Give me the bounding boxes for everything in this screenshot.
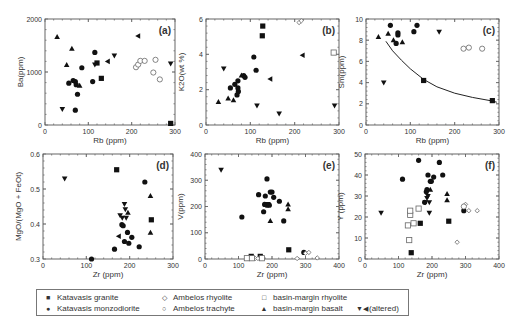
filled-circle-marker [425, 172, 430, 177]
down-triangle-marker [123, 216, 129, 221]
down-triangle-marker [276, 112, 282, 117]
panel-label: (c) [483, 25, 495, 36]
filled-circle-marker [125, 230, 130, 235]
filled-triangle-marker [400, 39, 406, 44]
y-tick-label: 0 [359, 122, 363, 129]
filled-circle-marker [228, 85, 233, 90]
x-tick-label: 0 [41, 262, 45, 269]
open-circle-marker [142, 58, 147, 63]
y-tick-label: 30 [354, 193, 362, 200]
down-triangle-marker [218, 168, 224, 173]
x-tick-label: 200 [426, 262, 438, 269]
left-triangle-marker [267, 76, 272, 82]
open-circle-marker [466, 45, 471, 50]
y-tick-label: 2 [359, 100, 363, 107]
y-tick-label: 4 [359, 79, 363, 86]
filled-circle-marker [89, 256, 94, 261]
y-tick-label: 0.6 [30, 151, 40, 158]
filled-circle-marker [142, 179, 147, 184]
y-tick-label: 100 [190, 229, 202, 236]
x-tick-label: 100 [404, 128, 416, 135]
panel-b: 01002003000246Rb (ppm)K2O(wt %)(b) [177, 16, 345, 146]
x-axis-label: Zr (ppm) [93, 270, 124, 279]
y-tick-label: 0 [358, 256, 362, 263]
filled-square-marker [260, 23, 265, 28]
y-tick-label: 300 [190, 177, 202, 184]
open-circle-icon: ○ [159, 303, 169, 314]
x-tick-label: 200 [449, 128, 461, 135]
filled-circle-marker [137, 244, 142, 249]
filled-circle-marker [236, 89, 241, 94]
plot-frame [205, 154, 339, 259]
open-diamond-marker [467, 209, 471, 213]
x-axis-label: Rb (ppm) [93, 136, 127, 145]
x-tick-label: 0 [364, 128, 368, 135]
y-tick-label: 400 [190, 151, 202, 158]
panel-label: (d) [156, 160, 169, 171]
filled-triangle-icon: ▲ [259, 303, 269, 314]
y-tick-label: 8 [359, 37, 363, 44]
filled-square-marker [418, 221, 423, 226]
filled-triangle-marker [285, 206, 291, 211]
down-triangle-marker [427, 200, 433, 205]
filled-circle-marker [431, 175, 436, 180]
legend-item-katavasis-granite: ■Katavasis granite [43, 292, 118, 303]
open-diamond-marker [455, 240, 459, 244]
open-circle-marker [461, 204, 466, 209]
y-tick-label: 2 [199, 86, 203, 93]
down-triangle-marker [332, 104, 338, 109]
down-triangle-marker [427, 211, 433, 216]
x-tick-label: 200 [126, 128, 138, 135]
filled-triangle-marker [385, 31, 391, 36]
filled-circle-marker [253, 68, 258, 73]
filled-circle-marker [235, 78, 240, 83]
filled-square-marker [421, 78, 426, 83]
filled-circle-marker [129, 235, 134, 240]
filled-triangle-marker [54, 34, 60, 39]
filled-circle-marker [251, 54, 256, 59]
x-axis-label: Zr (ppm) [257, 270, 288, 279]
legend-label: (altered) [369, 304, 399, 313]
open-square-marker [259, 256, 264, 261]
down-triangle-marker [112, 54, 118, 59]
legend-label: basin-margin rhyolite [273, 293, 347, 302]
open-circle-marker [151, 70, 156, 75]
filled-square-marker [149, 217, 154, 222]
filled-square-marker [286, 247, 291, 252]
filled-circle-marker [90, 79, 95, 84]
y-axis-label: MgO/(MgO + FeOt) [14, 172, 23, 241]
left-triangle-marker [116, 233, 121, 239]
legend-label: Katavasis granite [57, 293, 118, 302]
y-axis-label: Ba(ppm) [16, 56, 25, 87]
y-tick-label: 10 [355, 16, 363, 23]
x-tick-label: 200 [289, 128, 301, 135]
down-triangle-marker [381, 81, 387, 86]
open-square-marker [411, 221, 416, 226]
filled-circle-marker [256, 192, 261, 197]
x-tick-label: 300 [167, 262, 179, 269]
filled-square-marker [409, 250, 414, 255]
filled-triangle-marker [444, 197, 450, 202]
down-triangle-marker [254, 104, 260, 109]
y-tick-label: 10 [354, 235, 362, 242]
open-circle-marker [480, 46, 485, 51]
y-tick-label: 20 [354, 214, 362, 221]
filled-square-marker [490, 98, 495, 103]
left-triangle-marker [105, 59, 110, 65]
down-triangle-marker [378, 211, 384, 216]
open-diamond-marker [315, 256, 319, 260]
down-triangle-marker [62, 177, 68, 182]
open-diamond-marker [295, 256, 299, 260]
open-circle-marker [461, 46, 466, 51]
filled-circle-marker [440, 172, 445, 177]
filled-triangle-marker [216, 99, 222, 104]
filled-circle-marker [388, 23, 393, 28]
x-tick-label: 100 [80, 262, 92, 269]
filled-circle-marker [400, 177, 405, 182]
filled-circle-marker [239, 214, 244, 219]
open-square-marker [408, 208, 413, 213]
y-tick-label: 200 [190, 203, 202, 210]
filled-circle-marker [264, 176, 269, 181]
open-square-marker [407, 238, 412, 243]
legend-item-ambelos-trachyte: ○Ambelos trachyte [159, 303, 235, 314]
